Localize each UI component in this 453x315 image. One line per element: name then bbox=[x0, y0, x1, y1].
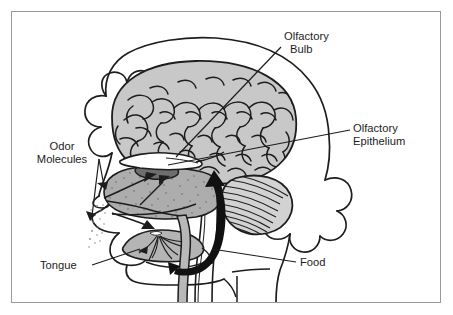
label-food-text: Food bbox=[300, 256, 326, 268]
label-food: Food bbox=[300, 256, 326, 268]
leader-odor-molecules-a bbox=[99, 159, 104, 186]
leader-food bbox=[212, 249, 296, 262]
figure-root: Olfactory Bulb Olfactory Epithelium Odor… bbox=[0, 0, 453, 315]
label-odor-molecules-line1: Odor bbox=[50, 140, 75, 152]
label-tongue-text: Tongue bbox=[40, 259, 77, 271]
label-odor-molecules: Odor Molecules bbox=[37, 140, 88, 165]
olfaction-diagram: Olfactory Bulb Olfactory Epithelium Odor… bbox=[0, 0, 453, 315]
label-tongue: Tongue bbox=[40, 259, 77, 271]
label-olfactory-epithelium-line1: Olfactory bbox=[353, 122, 398, 134]
tongue-shape bbox=[123, 230, 212, 267]
label-olfactory-epithelium-line2: Epithelium bbox=[353, 135, 405, 147]
label-olfactory-bulb-line1: Olfactory bbox=[284, 30, 329, 42]
label-olfactory-epithelium: Olfactory Epithelium bbox=[353, 122, 405, 147]
label-olfactory-bulb-line2: Bulb bbox=[290, 43, 312, 55]
cerebellum bbox=[221, 176, 292, 239]
label-olfactory-bulb: Olfactory Bulb bbox=[284, 30, 329, 55]
label-odor-molecules-line2: Molecules bbox=[37, 153, 88, 165]
odor-molecule-dots bbox=[88, 199, 106, 248]
